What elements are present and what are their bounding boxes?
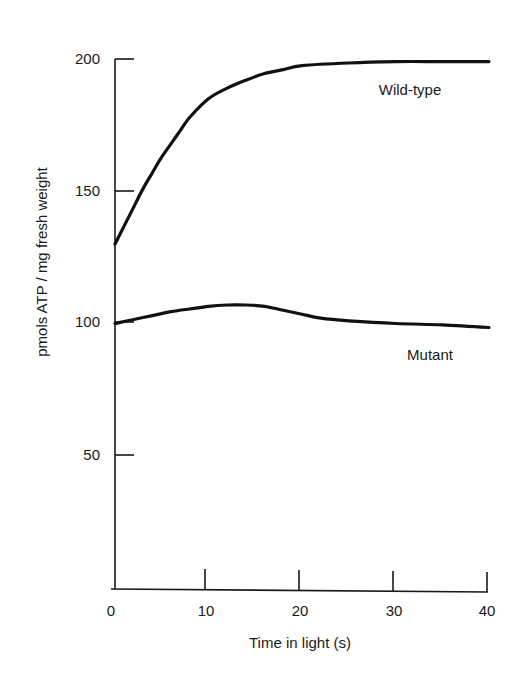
x-tick-label: 10 bbox=[198, 602, 215, 619]
atp-line-chart: 200 150 100 50 pmols ATP / mg fresh weig… bbox=[0, 0, 527, 696]
x-tick-label: 20 bbox=[292, 602, 309, 619]
y-axis: 200 150 100 50 pmols ATP / mg fresh weig… bbox=[33, 50, 134, 589]
x-axis: 0 10 20 30 40 Time in light (s) bbox=[107, 569, 496, 651]
mutant-curve bbox=[115, 305, 489, 328]
x-tick-label: 30 bbox=[386, 602, 403, 619]
y-tick-label: 100 bbox=[75, 313, 100, 330]
y-tick-label: 50 bbox=[83, 446, 100, 463]
x-tick-label: 0 bbox=[107, 602, 115, 619]
wild-type-label: Wild-type bbox=[379, 81, 442, 98]
mutant-label: Mutant bbox=[407, 346, 454, 363]
x-axis-title: Time in light (s) bbox=[249, 634, 351, 651]
y-tick-label: 150 bbox=[75, 182, 100, 199]
y-tick-label: 200 bbox=[75, 50, 100, 67]
x-tick-label: 40 bbox=[479, 602, 496, 619]
y-axis-title: pmols ATP / mg fresh weight bbox=[33, 166, 50, 356]
